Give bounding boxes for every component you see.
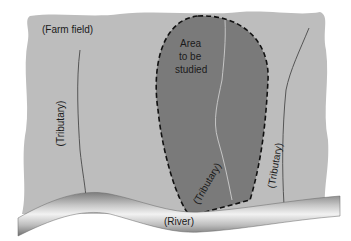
farm-field-diagram [0, 0, 351, 241]
study-area-label-line3: studied [175, 64, 207, 75]
river-label: (River) [164, 216, 194, 227]
study-area-label-line1: Area [180, 38, 201, 49]
study-area-label-line2: to be [179, 51, 201, 62]
tributary-left-label: (Tributary) [55, 101, 66, 147]
farm-field-label: (Farm field) [42, 24, 93, 35]
